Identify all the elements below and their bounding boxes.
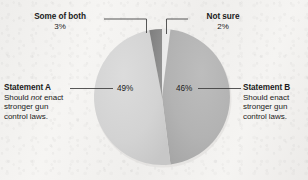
callout-some-of-both-title: Some of both: [18, 12, 102, 22]
callout-not-sure-percent: 2%: [190, 22, 256, 31]
leader-line-some-of-both: [104, 19, 147, 33]
callout-statement-b-title: Statement B: [243, 83, 307, 93]
callout-statement-a-line3: control laws.: [4, 112, 72, 121]
callout-statement-a-line1-post: enact: [42, 93, 64, 102]
callout-some-of-both: Some of both 3%: [18, 12, 102, 31]
slice-value-statement-a: 49%: [117, 84, 133, 93]
callout-statement-a-line1-pre: Should: [4, 93, 31, 102]
callout-statement-a-line1-emphasis: not: [31, 93, 42, 102]
callout-statement-a-line2: stronger gun: [4, 102, 72, 111]
callout-statement-b-line2: stronger gun: [243, 102, 307, 111]
callout-statement-a-line1: Should not enact: [4, 93, 72, 102]
callout-statement-b: Statement B Should enact stronger gun co…: [243, 83, 307, 121]
callout-statement-b-line3: control laws.: [243, 112, 307, 121]
callout-some-of-both-percent: 3%: [18, 22, 102, 31]
callout-statement-b-line1: Should enact: [243, 93, 307, 102]
callout-not-sure-title: Not sure: [190, 12, 256, 22]
callout-statement-a: Statement A Should not enact stronger gu…: [4, 83, 72, 121]
callout-not-sure: Not sure 2%: [190, 12, 256, 31]
pie-slice-statement-b[interactable]: [162, 30, 230, 165]
slice-value-statement-b: 46%: [176, 84, 192, 93]
pie-chart-figure: Some of both 3% Not sure 2% Statement A …: [0, 0, 308, 180]
callout-statement-a-title: Statement A: [4, 83, 72, 93]
